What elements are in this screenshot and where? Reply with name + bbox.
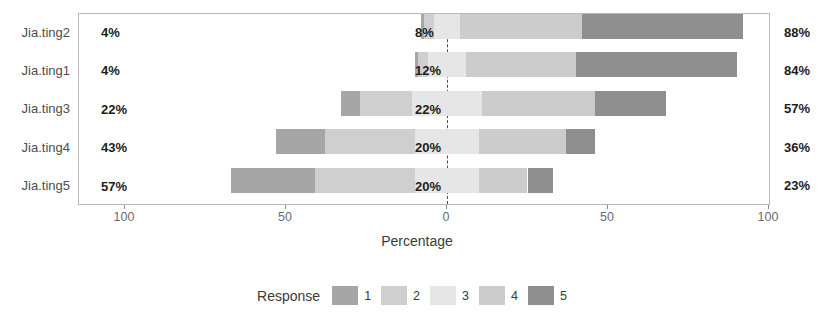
y-axis-label: Jia.ting5 bbox=[0, 167, 74, 205]
legend-key-label: 4 bbox=[511, 289, 518, 303]
bar-segment bbox=[566, 129, 595, 154]
bar-row: 22%22% bbox=[79, 91, 769, 129]
bar-segment bbox=[460, 14, 582, 39]
x-axis-tick-label: 50 bbox=[278, 210, 292, 224]
neutral-label: 20% bbox=[415, 168, 441, 205]
legend-item[interactable]: 5 bbox=[528, 286, 567, 305]
legend-item[interactable]: 2 bbox=[381, 286, 420, 305]
positive-total-label-text: 36% bbox=[784, 140, 810, 155]
bar-segment bbox=[479, 168, 527, 193]
neutral-label: 12% bbox=[415, 52, 441, 90]
negative-total-label: 57% bbox=[101, 168, 127, 205]
bar-row: 4%8% bbox=[79, 14, 769, 52]
negative-total-label: 4% bbox=[101, 14, 120, 52]
x-axis-tick-label: 100 bbox=[114, 210, 135, 224]
bar-row: 4%12% bbox=[79, 52, 769, 90]
likert-diverging-bar-chart: Jia.ting2Jia.ting1Jia.ting3Jia.ting4Jia.… bbox=[0, 0, 834, 315]
y-axis-label-text: Jia.ting3 bbox=[22, 101, 74, 116]
y-axis-label: Jia.ting3 bbox=[0, 90, 74, 128]
positive-total-label: 23% bbox=[772, 167, 830, 205]
x-axis: 10050050100 bbox=[78, 205, 770, 231]
bar-segment bbox=[479, 129, 566, 154]
positive-total-label-text: 57% bbox=[784, 101, 810, 116]
y-axis-label: Jia.ting2 bbox=[0, 13, 74, 51]
legend-items: 12345 bbox=[332, 286, 577, 305]
bar-row: 43%20% bbox=[79, 129, 769, 167]
positive-total-label: 57% bbox=[772, 90, 830, 128]
legend-title: Response bbox=[257, 288, 320, 304]
positive-total-label: 84% bbox=[772, 51, 830, 89]
y-axis: Jia.ting2Jia.ting1Jia.ting3Jia.ting4Jia.… bbox=[0, 13, 74, 205]
x-axis-tick-label: 100 bbox=[758, 210, 779, 224]
x-axis-tick-label: 0 bbox=[443, 210, 450, 224]
legend: Response 12345 bbox=[0, 286, 834, 305]
y-axis-label-text: Jia.ting5 bbox=[22, 178, 74, 193]
bar-segment bbox=[315, 168, 415, 193]
bar-segment bbox=[482, 91, 595, 116]
negative-total-label: 22% bbox=[101, 91, 127, 129]
legend-item[interactable]: 3 bbox=[430, 286, 469, 305]
legend-swatch bbox=[479, 286, 505, 305]
positive-total-label-text: 88% bbox=[784, 25, 810, 40]
positive-total-label: 88% bbox=[772, 13, 830, 51]
x-axis-tick bbox=[768, 205, 769, 209]
y-axis-label-text: Jia.ting1 bbox=[22, 63, 74, 78]
x-axis-tick bbox=[285, 205, 286, 209]
x-axis-title: Percentage bbox=[0, 233, 834, 249]
legend-key-label: 3 bbox=[462, 289, 469, 303]
legend-swatch bbox=[381, 286, 407, 305]
positive-total-label-text: 84% bbox=[784, 63, 810, 78]
x-axis-tick-label: 50 bbox=[600, 210, 614, 224]
legend-key-label: 5 bbox=[560, 289, 567, 303]
legend-swatch bbox=[528, 286, 554, 305]
positive-total-labels: 88%84%57%36%23% bbox=[772, 13, 834, 205]
bar-segment bbox=[528, 168, 554, 193]
negative-total-label: 4% bbox=[101, 52, 120, 90]
y-axis-label: Jia.ting1 bbox=[0, 51, 74, 89]
neutral-label: 20% bbox=[415, 129, 441, 167]
y-axis-label-text: Jia.ting4 bbox=[22, 140, 74, 155]
legend-key-label: 2 bbox=[413, 289, 420, 303]
bar-segment bbox=[576, 52, 737, 77]
neutral-label: 22% bbox=[415, 91, 441, 129]
legend-swatch bbox=[332, 286, 358, 305]
bar-segment bbox=[231, 168, 315, 193]
legend-swatch bbox=[430, 286, 456, 305]
plot-panel: 4%8%4%12%22%22%43%20%57%20% bbox=[78, 13, 770, 205]
y-axis-label-text: Jia.ting2 bbox=[22, 25, 74, 40]
bar-segment bbox=[582, 14, 743, 39]
bar-segment bbox=[360, 91, 412, 116]
legend-key-label: 1 bbox=[364, 289, 371, 303]
bar-segment bbox=[434, 14, 460, 39]
legend-item[interactable]: 1 bbox=[332, 286, 371, 305]
bar-segment bbox=[595, 91, 666, 116]
negative-total-label: 43% bbox=[101, 129, 127, 167]
bar-segment bbox=[325, 129, 415, 154]
bar-segment bbox=[341, 91, 360, 116]
x-axis-tick bbox=[607, 205, 608, 209]
bar-segment bbox=[276, 129, 324, 154]
y-axis-label: Jia.ting4 bbox=[0, 128, 74, 166]
neutral-label: 8% bbox=[415, 14, 434, 52]
bar-segment bbox=[466, 52, 575, 77]
positive-total-label: 36% bbox=[772, 128, 830, 166]
positive-total-label-text: 23% bbox=[784, 178, 810, 193]
x-axis-tick bbox=[124, 205, 125, 209]
x-axis-tick bbox=[446, 205, 447, 209]
legend-item[interactable]: 4 bbox=[479, 286, 518, 305]
bar-row: 57%20% bbox=[79, 168, 769, 205]
